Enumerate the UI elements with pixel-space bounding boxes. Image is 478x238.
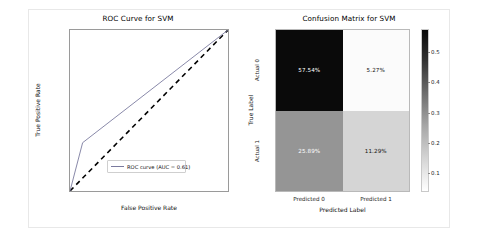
cm-ytick-actual-1: Actual 1: [254, 140, 260, 162]
colorbar-tick: 0.1: [431, 170, 440, 176]
cm-cell-actual0-predicted1: 5.27%: [343, 30, 410, 111]
colorbar: [421, 29, 429, 192]
colorbar-tick: 0.2: [431, 140, 440, 146]
colorbar-tick: 0.3: [431, 110, 440, 116]
roc-title: ROC Curve for SVM: [29, 14, 247, 23]
roc-legend: ROC curve (AUC = 0.61): [107, 160, 186, 173]
confusion-matrix-panel: Confusion Matrix for SVM 57.54% 5.27% 25…: [247, 10, 451, 227]
confusion-matrix-grid: 57.54% 5.27% 25.89% 11.29%: [275, 29, 410, 192]
roc-legend-swatch: [111, 166, 124, 167]
roc-panel: ROC Curve for SVM 0.0 0.2 0.4 0.6 0.8 1.…: [29, 10, 247, 227]
roc-legend-label: ROC curve (AUC = 0.61): [127, 164, 190, 170]
cm-cell-actual1-predicted1: 11.29%: [343, 111, 410, 192]
roc-xaxis-label: False Positive Rate: [69, 204, 229, 211]
colorbar-tick: 0.4: [431, 79, 440, 85]
cm-cell-actual1-predicted0: 25.89%: [276, 111, 343, 192]
cm-yaxis-label: True Label: [247, 95, 254, 126]
figure-canvas: ROC Curve for SVM 0.0 0.2 0.4 0.6 0.8 1.…: [28, 9, 450, 228]
colorbar-tick: 0.5: [431, 49, 440, 55]
roc-yaxis-label: True Positive Rate: [34, 83, 41, 136]
cm-xaxis-label: Predicted Label: [275, 206, 410, 213]
cm-ytick-actual-0: Actual 0: [254, 59, 260, 81]
confusion-matrix-title: Confusion Matrix for SVM: [247, 14, 451, 23]
cm-xtick-predicted-1: Predicted 1: [360, 196, 392, 202]
cm-xtick-predicted-0: Predicted 0: [293, 196, 325, 202]
cm-cell-actual0-predicted0: 57.54%: [276, 30, 343, 111]
